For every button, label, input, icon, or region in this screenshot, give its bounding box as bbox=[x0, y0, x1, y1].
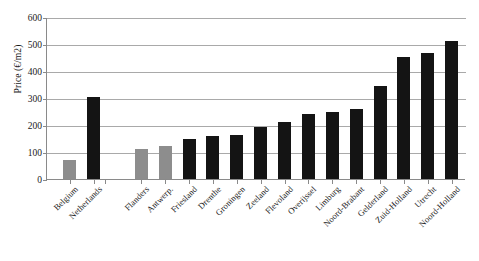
y-tick-label: 400 bbox=[8, 67, 47, 77]
bar bbox=[326, 112, 339, 179]
y-tick-label: 100 bbox=[8, 148, 47, 158]
bar bbox=[350, 109, 363, 179]
bar bbox=[421, 53, 434, 179]
y-tick-label: 300 bbox=[8, 94, 47, 104]
x-axis-labels: BelgiumNetherlandsFlandersAntwerp.Friesl… bbox=[46, 184, 465, 261]
bar-chart: Price (€/m2) 600 500 400 300 200 100 0 B… bbox=[0, 0, 479, 261]
bar bbox=[206, 136, 219, 179]
y-tick-label: 200 bbox=[8, 121, 47, 131]
bar bbox=[230, 135, 243, 179]
bar bbox=[374, 86, 387, 179]
bar bbox=[278, 122, 291, 179]
bar bbox=[159, 146, 172, 179]
bar bbox=[445, 41, 458, 180]
bar bbox=[63, 160, 76, 179]
bar bbox=[135, 149, 148, 179]
bar bbox=[254, 127, 267, 179]
y-tick-label: 500 bbox=[8, 40, 47, 50]
bar bbox=[302, 114, 315, 179]
bar-series bbox=[47, 17, 466, 179]
bar bbox=[87, 97, 100, 179]
bar bbox=[183, 139, 196, 180]
plot-area: 600 500 400 300 200 100 0 bbox=[46, 18, 465, 180]
bar bbox=[397, 57, 410, 179]
y-tick-label: 0 bbox=[8, 175, 47, 185]
y-tick-label: 600 bbox=[8, 13, 47, 23]
